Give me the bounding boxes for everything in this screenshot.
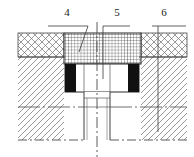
region-left-diagonal-body — [18, 57, 64, 140]
cross-section-figure: 4 5 6 — [0, 0, 194, 157]
drawing-canvas: 4 5 6 — [0, 0, 194, 157]
region-left-black-block — [65, 64, 76, 92]
region-right-crosshatch-band — [141, 33, 187, 57]
callout-label-5: 5 — [114, 6, 120, 18]
region-right-black-block — [128, 64, 139, 92]
region-upper-mesh-plate — [64, 33, 141, 64]
callout-label-4: 4 — [64, 6, 70, 18]
callout-label-6: 6 — [161, 6, 167, 18]
region-left-crosshatch-band — [18, 33, 64, 57]
region-central-cavity — [65, 64, 139, 92]
region-right-diagonal-body — [141, 57, 187, 140]
